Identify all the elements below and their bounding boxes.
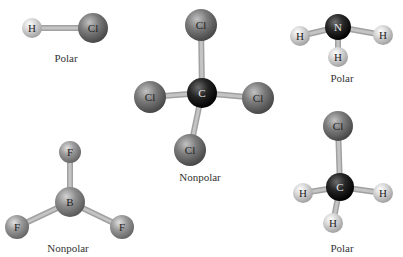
atom-symbol: Cl bbox=[185, 144, 195, 156]
ch3cl-atom-c-0: C bbox=[326, 173, 354, 201]
atom-symbol: H bbox=[28, 22, 36, 34]
nh3-atom-n-0: N bbox=[325, 14, 351, 40]
ccl4-polarity-label: Nonpolar bbox=[179, 171, 221, 183]
atom-symbol: H bbox=[299, 187, 307, 199]
atom-symbol: Cl bbox=[253, 92, 263, 104]
nh3-polarity-label: Polar bbox=[330, 72, 353, 84]
atom-symbol: Cl bbox=[333, 120, 343, 132]
atom-symbol: Cl bbox=[145, 91, 155, 103]
atom-symbol: C bbox=[198, 87, 205, 99]
ccl4-atom-c-0: C bbox=[187, 78, 217, 108]
atom-symbol: C bbox=[336, 181, 343, 193]
ch3cl-atom-h-3: H bbox=[373, 183, 393, 203]
atom-symbol: F bbox=[119, 221, 125, 233]
atom-symbol: F bbox=[14, 221, 20, 233]
atom-symbol: H bbox=[379, 29, 387, 41]
bf3-atom-f-3: F bbox=[110, 215, 134, 239]
atom-symbol: N bbox=[334, 21, 342, 33]
ccl4-atom-cl-4: Cl bbox=[174, 134, 206, 166]
atom-symbol: H bbox=[334, 51, 342, 63]
ccl4-atom-cl-2: Cl bbox=[134, 81, 166, 113]
hcl-atom-h-0: H bbox=[22, 18, 42, 38]
nh3-atom-h-2: H bbox=[373, 25, 393, 45]
atom-symbol: F bbox=[67, 146, 73, 158]
hcl-atom-cl-1: Cl bbox=[78, 13, 108, 43]
ccl4-atom-cl-1: Cl bbox=[185, 9, 217, 41]
ch3cl-atom-h-4: H bbox=[323, 213, 343, 233]
nh3-atom-h-3: H bbox=[328, 47, 348, 67]
bf3-atom-b-0: B bbox=[55, 187, 85, 217]
bf3-atom-f-2: F bbox=[5, 215, 29, 239]
atom-symbol: Cl bbox=[88, 22, 98, 34]
bf3-atom-f-1: F bbox=[59, 141, 81, 163]
molecular-polarity-diagram: HClCClClClClNHHHCClHHHBFFF Polar Nonpola… bbox=[0, 0, 403, 257]
atom-symbol: Cl bbox=[196, 19, 206, 31]
nh3-atom-h-1: H bbox=[290, 26, 310, 46]
ch3cl-atom-cl-1: Cl bbox=[323, 111, 353, 141]
molecule-canvas: HClCClClClClNHHHCClHHHBFFF bbox=[0, 0, 403, 257]
atom-symbol: H bbox=[296, 30, 304, 42]
atom-symbol: H bbox=[379, 187, 387, 199]
ccl4-atom-cl-3: Cl bbox=[242, 82, 274, 114]
atom-symbol: H bbox=[329, 217, 337, 229]
ch3cl-atom-h-2: H bbox=[293, 183, 313, 203]
ch3cl-polarity-label: Polar bbox=[330, 242, 353, 254]
hcl-polarity-label: Polar bbox=[54, 52, 77, 64]
atom-symbol: B bbox=[66, 196, 73, 208]
bf3-polarity-label: Nonpolar bbox=[47, 242, 89, 254]
